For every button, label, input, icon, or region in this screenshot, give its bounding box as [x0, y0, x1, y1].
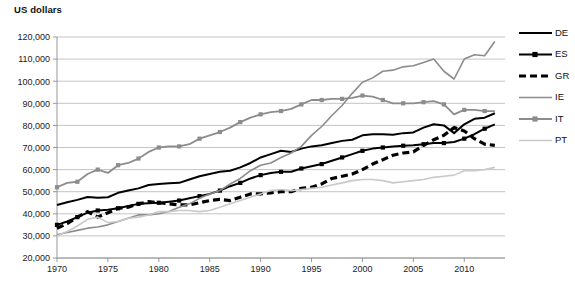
y-tick-label: 30,000 — [22, 231, 50, 241]
legend-label-gr: GR — [555, 70, 569, 81]
series-marker-it — [340, 97, 344, 101]
x-tick-label: 2010 — [454, 264, 474, 274]
series-marker-it — [462, 108, 466, 112]
series-marker-it — [421, 100, 425, 104]
y-tick-label: 110,000 — [18, 54, 50, 64]
series-marker-es — [340, 155, 344, 159]
series-marker-it — [381, 98, 385, 102]
series-marker-es — [381, 145, 385, 149]
series-marker-es — [483, 127, 487, 131]
x-tick-label: 2000 — [352, 264, 372, 274]
series-marker-it — [299, 102, 303, 106]
y-tick-label: 120,000 — [17, 32, 50, 42]
series-marker-es — [401, 144, 405, 148]
series-marker-es — [299, 166, 303, 170]
series-marker-it — [96, 168, 100, 172]
series-marker-it — [75, 180, 79, 184]
x-tick-label: 1970 — [47, 264, 67, 274]
series-marker-it — [279, 109, 283, 113]
series-marker-es — [259, 173, 263, 177]
series-marker-es — [238, 181, 242, 185]
x-tick-label: 2005 — [403, 264, 423, 274]
plot-area: 20,00030,00040,00050,00060,00070,00080,0… — [0, 0, 575, 292]
series-marker-it — [442, 102, 446, 106]
series-marker-it — [401, 101, 405, 105]
series-marker-it — [55, 185, 59, 189]
legend-label-pt: PT — [555, 134, 567, 145]
legend-marker-it — [532, 116, 537, 121]
series-marker-it — [116, 163, 120, 167]
series-marker-it — [197, 137, 201, 141]
series-line-pt — [57, 167, 495, 236]
line-chart: US dollars 20,00030,00040,00050,00060,00… — [0, 0, 575, 292]
y-tick-label: 60,000 — [22, 165, 50, 175]
legend-label-it: IT — [555, 113, 564, 124]
legend-label-de: DE — [555, 27, 568, 38]
x-tick-label: 1995 — [302, 264, 322, 274]
x-tick-label: 1975 — [98, 264, 118, 274]
y-tick-label: 90,000 — [22, 99, 50, 109]
y-tick-label: 20,000 — [22, 253, 50, 263]
series-marker-it — [177, 144, 181, 148]
series-marker-es — [320, 162, 324, 166]
series-marker-it — [136, 156, 140, 160]
x-tick-label: 1985 — [200, 264, 220, 274]
series-marker-it — [360, 93, 364, 97]
y-tick-label: 40,000 — [22, 209, 50, 219]
series-line-es — [57, 124, 495, 225]
legend-label-es: ES — [555, 48, 568, 59]
x-tick-label: 1980 — [149, 264, 169, 274]
series-marker-it — [320, 98, 324, 102]
series-marker-es — [177, 198, 181, 202]
series-marker-es — [442, 141, 446, 145]
series-marker-es — [279, 170, 283, 174]
series-marker-es — [462, 137, 466, 141]
y-tick-label: 100,000 — [17, 77, 50, 87]
series-line-it — [57, 96, 495, 188]
series-marker-it — [259, 112, 263, 116]
series-marker-it — [218, 130, 222, 134]
series-marker-es — [360, 149, 364, 153]
x-tick-label: 1990 — [251, 264, 271, 274]
legend-label-ie: IE — [555, 91, 564, 102]
series-marker-it — [483, 109, 487, 113]
series-line-ie — [57, 41, 495, 234]
legend-marker-es — [532, 52, 537, 57]
y-tick-label: 70,000 — [22, 143, 50, 153]
y-tick-label: 80,000 — [22, 121, 50, 131]
series-marker-es — [96, 208, 100, 212]
y-tick-label: 50,000 — [22, 187, 50, 197]
series-line-de — [57, 113, 495, 205]
series-marker-it — [157, 145, 161, 149]
series-marker-it — [238, 120, 242, 124]
chart-svg: 20,00030,00040,00050,00060,00070,00080,0… — [0, 0, 575, 292]
